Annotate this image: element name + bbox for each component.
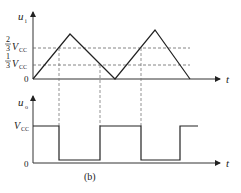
bottom-zero-label: 0 [24,159,29,169]
tick-one-third-vcc: 1 3 V CC [5,52,27,70]
figure-caption: (b) [84,171,96,183]
svg-text:3: 3 [6,61,10,70]
svg-text:CC: CC [19,47,27,53]
svg-text:2: 2 [6,35,10,44]
bottom-axes [33,96,220,163]
projection-lines [59,48,141,126]
svg-text:CC: CC [19,64,27,70]
tick-vcc: V CC [14,120,29,132]
bottom-y-label-sub: o [25,104,28,110]
square-wave [33,126,198,160]
svg-text:1: 1 [6,52,10,61]
tick-two-thirds-vcc: 2 3 V CC [5,35,27,53]
triangle-wave [33,30,190,79]
top-y-label: u [18,10,24,22]
top-zero-label: 0 [24,74,29,84]
waveform-diagram: u i t 2 3 V CC 1 3 V CC 0 u o V CC 0 t (… [0,0,241,193]
bottom-x-label: t [226,157,230,169]
svg-text:CC: CC [21,126,29,132]
top-x-label: t [226,73,230,85]
top-y-label-sub: i [25,18,27,24]
bottom-y-label: u [18,96,24,108]
